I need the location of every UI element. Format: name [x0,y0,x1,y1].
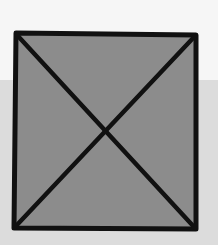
image-placeholder-icon [0,0,218,245]
